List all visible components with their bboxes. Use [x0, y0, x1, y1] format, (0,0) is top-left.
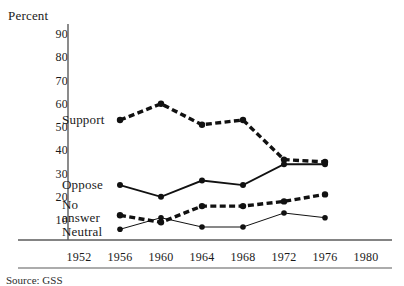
x-tick-1980: 1980: [343, 250, 389, 264]
series-line: [120, 164, 325, 197]
data-point-1960: [158, 194, 164, 200]
x-tick-1976: 1976: [302, 250, 348, 264]
x-tick-1968: 1968: [220, 250, 266, 264]
data-point-1960: [158, 101, 164, 107]
series-label-neutral: Neutral: [62, 225, 102, 239]
data-point-1972: [281, 198, 287, 204]
series-line: [120, 104, 325, 162]
data-point-1968: [240, 117, 246, 123]
series-label-no-answer: Noanswer: [62, 198, 100, 224]
data-point-1964: [199, 203, 205, 209]
data-point-1972: [281, 210, 287, 216]
data-point-1964: [199, 122, 205, 128]
series-oppose: [117, 161, 328, 200]
x-tick-1972: 1972: [261, 250, 307, 264]
series-neutral: [117, 210, 328, 232]
data-point-1968: [240, 224, 246, 230]
data-point-1976: [322, 161, 328, 167]
series-support: [117, 101, 328, 165]
data-point-1960: [158, 215, 164, 221]
data-point-1956: [117, 117, 123, 123]
series-line: [120, 194, 325, 222]
data-point-1976: [322, 215, 328, 221]
series-label-support: Support: [62, 113, 105, 127]
data-point-1956: [117, 212, 123, 218]
x-tick-1952: 1952: [56, 250, 102, 264]
source-note: Source: GSS: [6, 274, 63, 286]
data-point-1972: [281, 161, 287, 167]
series-label-line-2: answer: [62, 211, 100, 224]
data-point-1964: [199, 178, 205, 184]
x-tick-1964: 1964: [179, 250, 225, 264]
data-point-1976: [322, 191, 328, 197]
series-label-oppose: Oppose: [62, 178, 103, 192]
data-point-1956: [117, 182, 123, 188]
x-tick-1956: 1956: [97, 250, 143, 264]
data-point-1956: [117, 227, 123, 233]
series-no-answer: [117, 191, 328, 225]
data-point-1964: [199, 224, 205, 230]
data-point-1968: [240, 182, 246, 188]
x-tick-1960: 1960: [138, 250, 184, 264]
data-point-1968: [240, 203, 246, 209]
